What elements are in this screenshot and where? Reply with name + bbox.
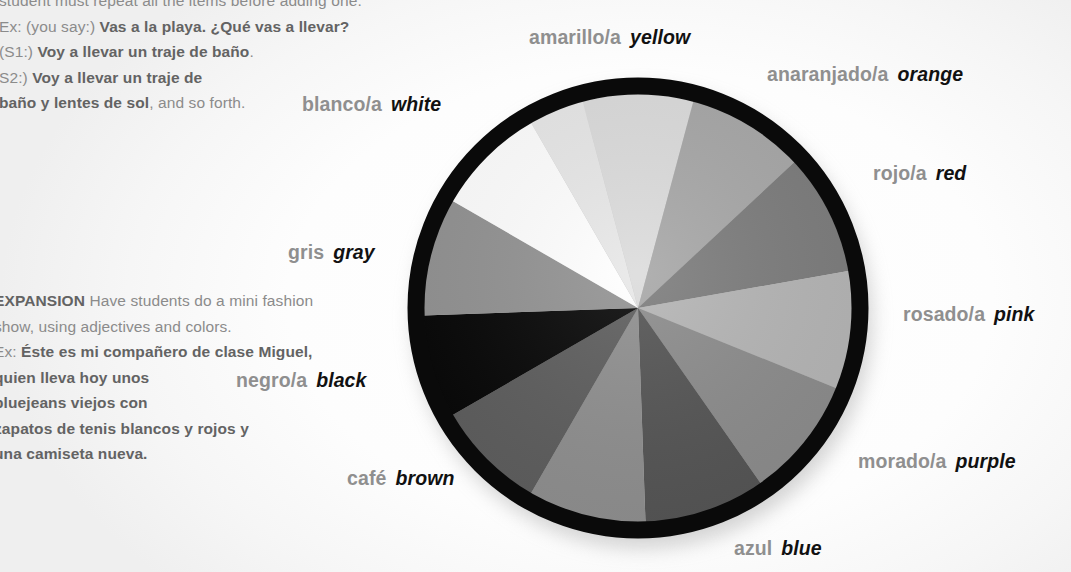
text-run: Ex: bbox=[0, 343, 21, 360]
color-label-spanish: anaranjado/a bbox=[767, 63, 889, 85]
text-run: . bbox=[249, 43, 253, 60]
color-label-amarillo: amarillo/ayellow bbox=[529, 27, 690, 47]
color-wheel bbox=[398, 66, 882, 552]
color-label-english: purple bbox=[956, 450, 1016, 472]
color-label-cafe: cafébrown bbox=[347, 468, 454, 488]
text-run: Have students do a mini fashion bbox=[85, 292, 313, 309]
color-label-english: white bbox=[391, 93, 441, 115]
text-run-bold: EXPANSION bbox=[0, 292, 85, 309]
color-label-gris: grisgray bbox=[288, 242, 375, 262]
color-label-spanish: amarillo/a bbox=[529, 26, 621, 48]
text-run-bold: zapatos de tenis blancos y rojos y bbox=[0, 420, 249, 437]
text-line: bluejeans viejos con bbox=[0, 390, 313, 416]
color-label-spanish: morado/a bbox=[858, 450, 947, 472]
text-line: Ex: Éste es mi compañero de clase Miguel… bbox=[0, 339, 313, 365]
color-label-english: blue bbox=[781, 537, 822, 559]
text-run: show, using adjectives and colors. bbox=[0, 318, 232, 335]
color-label-blanco: blanco/awhite bbox=[302, 94, 441, 114]
color-label-english: gray bbox=[333, 241, 375, 263]
text-run-bold: bluejeans viejos con bbox=[0, 394, 148, 411]
text-run: , and so forth. bbox=[149, 94, 245, 111]
color-wheel-svg bbox=[400, 70, 876, 546]
text-line: EXPANSION Have students do a mini fashio… bbox=[0, 288, 313, 314]
color-label-english: brown bbox=[395, 467, 454, 489]
text-run-bold: baño y lentes de sol bbox=[0, 94, 149, 111]
text-run: S2:) bbox=[0, 69, 32, 86]
text-line: una camiseta nueva. bbox=[0, 441, 313, 467]
text-run: Ex: (you say:) bbox=[0, 18, 100, 35]
text-run-bold: una camiseta nueva. bbox=[0, 445, 148, 462]
text-line: (S1:) Voy a llevar un traje de baño. bbox=[0, 39, 362, 65]
color-label-spanish: gris bbox=[288, 241, 324, 263]
color-label-rosado: rosado/apink bbox=[903, 304, 1035, 324]
color-label-spanish: negro/a bbox=[236, 369, 307, 391]
text-line: student must repeat all the items before… bbox=[0, 0, 362, 14]
color-label-anaranjado: anaranjado/aorange bbox=[767, 64, 963, 84]
color-label-azul: azulblue bbox=[734, 538, 822, 558]
text-line: zapatos de tenis blancos y rojos y bbox=[0, 416, 313, 442]
color-label-english: red bbox=[936, 162, 967, 184]
text-run-bold: Éste es mi compañero de clase Miguel, bbox=[21, 343, 312, 360]
text-run-bold: quien lleva hoy unos bbox=[0, 369, 149, 386]
color-wheel-disc bbox=[400, 70, 876, 546]
color-label-morado: morado/apurple bbox=[858, 451, 1016, 471]
text-line: show, using adjectives and colors. bbox=[0, 314, 313, 340]
color-label-spanish: rosado/a bbox=[903, 303, 985, 325]
color-label-spanish: azul bbox=[734, 537, 772, 559]
text-line: S2:) Voy a llevar un traje de bbox=[0, 65, 362, 91]
color-label-rojo: rojo/ared bbox=[873, 163, 966, 183]
color-label-english: orange bbox=[898, 63, 964, 85]
color-label-spanish: rojo/a bbox=[873, 162, 927, 184]
color-label-english: pink bbox=[994, 303, 1035, 325]
text-run: student must repeat all the items before… bbox=[0, 0, 362, 9]
text-run-bold: Voy a llevar un traje de bbox=[32, 69, 202, 86]
text-run: (S1:) bbox=[0, 43, 38, 60]
text-line: Ex: (you say:) Vas a la playa. ¿Qué vas … bbox=[0, 14, 362, 40]
wheel-paper-tint bbox=[424, 94, 852, 522]
color-label-spanish: blanco/a bbox=[302, 93, 382, 115]
color-label-negro: negro/ablack bbox=[236, 370, 367, 390]
text-run-bold: Voy a llevar un traje de baño bbox=[38, 43, 250, 60]
color-label-english: black bbox=[316, 369, 366, 391]
page-canvas: you say a category and students name ite… bbox=[0, 0, 1071, 572]
color-label-spanish: café bbox=[347, 467, 386, 489]
color-label-english: yellow bbox=[630, 26, 690, 48]
text-run-bold: Vas a la playa. ¿Qué vas a llevar? bbox=[100, 18, 350, 35]
